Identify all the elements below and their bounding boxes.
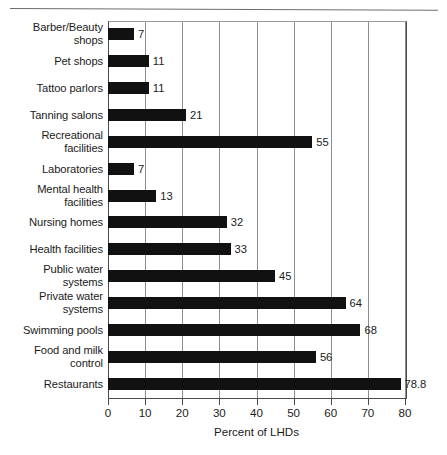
bar-value-label: 7 xyxy=(138,163,144,175)
x-tick-30 xyxy=(219,398,220,405)
x-tick-label: 60 xyxy=(311,406,351,420)
category-label: Swimming pools xyxy=(5,323,103,336)
bar-row: Recreationalfacilities55 xyxy=(0,128,447,155)
x-tick-60 xyxy=(331,398,332,405)
category-label-line2: facilities xyxy=(64,196,103,208)
bar-value-label: 7 xyxy=(138,28,144,40)
bar-value-label: 21 xyxy=(190,109,202,121)
category-label: Recreationalfacilities xyxy=(5,129,103,155)
bar-value-label: 55 xyxy=(316,136,328,148)
bar-row: Public watersystems45 xyxy=(0,263,447,290)
bar-row: Pet shops11 xyxy=(0,48,447,75)
bar-row: Health facilities33 xyxy=(0,236,447,263)
bar xyxy=(108,243,231,255)
bar xyxy=(108,163,134,175)
category-label-line2: systems xyxy=(63,303,103,315)
bar-value-label: 33 xyxy=(235,243,247,255)
bar xyxy=(108,324,360,336)
bar-value-label: 11 xyxy=(153,82,165,94)
x-tick-80 xyxy=(405,398,406,405)
bar-row: Barber/Beautyshops7 xyxy=(0,21,447,48)
bar xyxy=(108,297,346,309)
bar-value-label: 11 xyxy=(153,55,165,67)
x-tick-label: 80 xyxy=(385,406,425,420)
page-top-rule xyxy=(10,8,438,11)
category-label: Pet shops xyxy=(5,55,103,68)
bar-value-label: 13 xyxy=(160,190,172,202)
x-tick-label: 70 xyxy=(348,406,388,420)
category-label: Nursing homes xyxy=(5,216,103,229)
category-label: Food and milkcontrol xyxy=(5,344,103,370)
category-label-line2: control xyxy=(70,357,103,369)
bar-row: Tanning salons21 xyxy=(0,102,447,129)
bar xyxy=(108,28,134,40)
bar xyxy=(108,270,275,282)
bar xyxy=(108,216,227,228)
x-tick-label: 0 xyxy=(88,406,128,420)
bar-row: Laboratories7 xyxy=(0,155,447,182)
category-label: Laboratories xyxy=(5,162,103,175)
category-label: Health facilities xyxy=(5,243,103,256)
x-tick-0 xyxy=(108,398,109,405)
bar xyxy=(108,55,149,67)
x-tick-70 xyxy=(368,398,369,405)
x-tick-40 xyxy=(257,398,258,405)
category-label: Public watersystems xyxy=(5,263,103,289)
x-tick-label: 20 xyxy=(162,406,202,420)
bar-value-label: 56 xyxy=(320,351,332,363)
x-axis-title: Percent of LHDs xyxy=(108,425,405,438)
bar-row: Mental healthfacilities13 xyxy=(0,182,447,209)
bar-value-label: 64 xyxy=(350,297,362,309)
x-tick-20 xyxy=(182,398,183,405)
bar-chart-figure: Barber/Beautyshops7Pet shops11Tattoo par… xyxy=(0,0,447,455)
bar-row: Restaurants78.8 xyxy=(0,370,447,397)
bar xyxy=(108,351,316,363)
bar xyxy=(108,136,312,148)
x-tick-label: 40 xyxy=(237,406,277,420)
x-tick-label: 30 xyxy=(199,406,239,420)
bar xyxy=(108,82,149,94)
bar-row: Nursing homes32 xyxy=(0,209,447,236)
category-label: Tanning salons xyxy=(5,108,103,121)
x-tick-label: 10 xyxy=(125,406,165,420)
category-label-line2: systems xyxy=(63,276,103,288)
x-tick-10 xyxy=(145,398,146,405)
bar-value-label: 45 xyxy=(279,270,291,282)
category-label: Restaurants xyxy=(5,377,103,390)
bar-row: Food and milkcontrol56 xyxy=(0,343,447,370)
bar xyxy=(108,378,401,390)
bar-value-label: 68 xyxy=(364,324,376,336)
category-label: Barber/Beautyshops xyxy=(5,21,103,47)
bar-row: Private watersystems64 xyxy=(0,290,447,317)
category-label: Mental healthfacilities xyxy=(5,183,103,209)
bar-row: Swimming pools68 xyxy=(0,316,447,343)
x-axis-tick-labels: 01020304050607080 xyxy=(0,406,447,422)
bar xyxy=(108,109,186,121)
category-label: Tattoo parlors xyxy=(5,82,103,95)
bar-value-label: 32 xyxy=(231,216,243,228)
x-tick-50 xyxy=(294,398,295,405)
category-label-line2: facilities xyxy=(64,142,103,154)
bar-rows: Barber/Beautyshops7Pet shops11Tattoo par… xyxy=(0,21,447,397)
bar-row: Tattoo parlors11 xyxy=(0,75,447,102)
x-axis-ticks xyxy=(0,398,447,406)
bar-value-label: 78.8 xyxy=(405,378,427,390)
category-label-line2: shops xyxy=(74,34,103,46)
category-label: Private watersystems xyxy=(5,290,103,316)
x-tick-label: 50 xyxy=(274,406,314,420)
bar xyxy=(108,190,156,202)
